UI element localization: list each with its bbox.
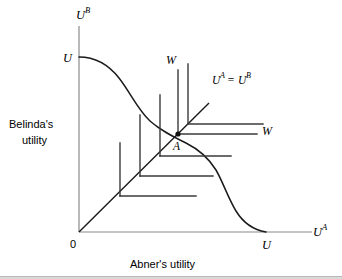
x-axis-title-superscript: A bbox=[321, 222, 328, 232]
indifference-curve-3 bbox=[160, 95, 231, 156]
indifference-curve-1 bbox=[120, 143, 196, 196]
equal-utility-ray bbox=[79, 103, 209, 232]
optimum-point-marker bbox=[175, 131, 180, 136]
y-axis-caption-line1: Belinda's bbox=[9, 118, 54, 130]
y-axis-title: U B bbox=[76, 5, 90, 22]
welfare-right-label: W bbox=[262, 124, 273, 138]
indifference-curve-5 bbox=[188, 64, 263, 124]
utility-possibility-diagram: U B U A U U 0 W W U A = U B A Belinda's … bbox=[0, 0, 342, 279]
y-axis-caption: Belinda's utility bbox=[9, 118, 54, 146]
equal-utility-label-ub-sup: B bbox=[246, 71, 251, 80]
y-intercept-label: U bbox=[63, 51, 73, 65]
x-axis-title: U A bbox=[313, 222, 328, 239]
x-intercept-label: U bbox=[262, 238, 272, 252]
equal-utility-label-ua-sup: A bbox=[219, 71, 225, 80]
optimum-point-label: A bbox=[172, 140, 181, 152]
equal-utility-label-equals: = bbox=[227, 74, 235, 86]
x-axis-caption: Abner's utility bbox=[130, 258, 196, 270]
y-axis-caption-line2: utility bbox=[22, 134, 48, 146]
y-axis-title-superscript: B bbox=[85, 5, 90, 15]
axes-group bbox=[79, 26, 312, 232]
equal-utility-label: U A = U B bbox=[212, 71, 251, 86]
origin-label: 0 bbox=[70, 238, 76, 250]
welfare-top-label: W bbox=[166, 53, 177, 67]
diagram-canvas: U B U A U U 0 W W U A = U B A Belinda's … bbox=[0, 0, 342, 279]
